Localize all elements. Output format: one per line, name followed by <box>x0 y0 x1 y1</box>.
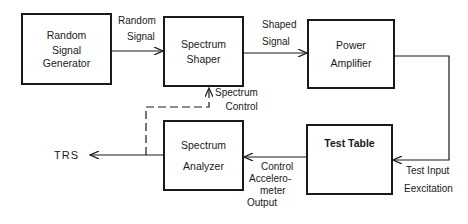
block-text: Analyzer <box>183 159 224 174</box>
label-line: Spectrum <box>215 86 258 100</box>
block-text: Random <box>47 28 87 43</box>
label-line: Random <box>118 14 156 28</box>
block-spectrum-analyzer: Spectrum Analyzer <box>163 120 244 191</box>
label-control-accelerometer-output: Control Accelero- meter Output <box>253 161 293 209</box>
block-text: Test Table <box>324 136 374 151</box>
block-text: Spectrum <box>181 138 226 153</box>
block-power-amplifier: Power Amplifier <box>307 19 395 89</box>
label-line: meter <box>253 185 293 197</box>
label-line: Control <box>253 161 293 173</box>
label-line: Output <box>247 197 293 209</box>
label-line: Signal <box>262 35 296 49</box>
label-spectrum-control: Spectrum Control <box>215 86 258 114</box>
block-text: Shaper <box>187 52 221 67</box>
label-line: Signal <box>118 30 156 44</box>
block-spectrum-shaper: Spectrum Shaper <box>163 16 244 87</box>
label-line: Shaped <box>262 18 296 32</box>
block-text: Spectrum <box>181 37 226 52</box>
label-line: Control <box>215 100 258 114</box>
arrow-test-input <box>393 56 449 160</box>
label-test-input: Test Input Eexcitation <box>406 164 453 196</box>
label-shaped-signal: Shaped Signal <box>262 18 296 49</box>
label-line: Test Input <box>406 164 453 178</box>
block-text: Power <box>336 38 366 53</box>
block-test-table: Test Table <box>306 124 393 195</box>
label-line: Accelero- <box>249 173 293 185</box>
block-text: Generator <box>43 56 90 71</box>
block-random-signal-generator: Random Signal Generator <box>21 13 112 85</box>
block-text: Amplifier <box>331 56 372 71</box>
label-trs: TRS <box>54 148 79 162</box>
label-line: Eexcitation <box>404 182 453 196</box>
label-random-signal: Random Signal <box>118 14 156 44</box>
